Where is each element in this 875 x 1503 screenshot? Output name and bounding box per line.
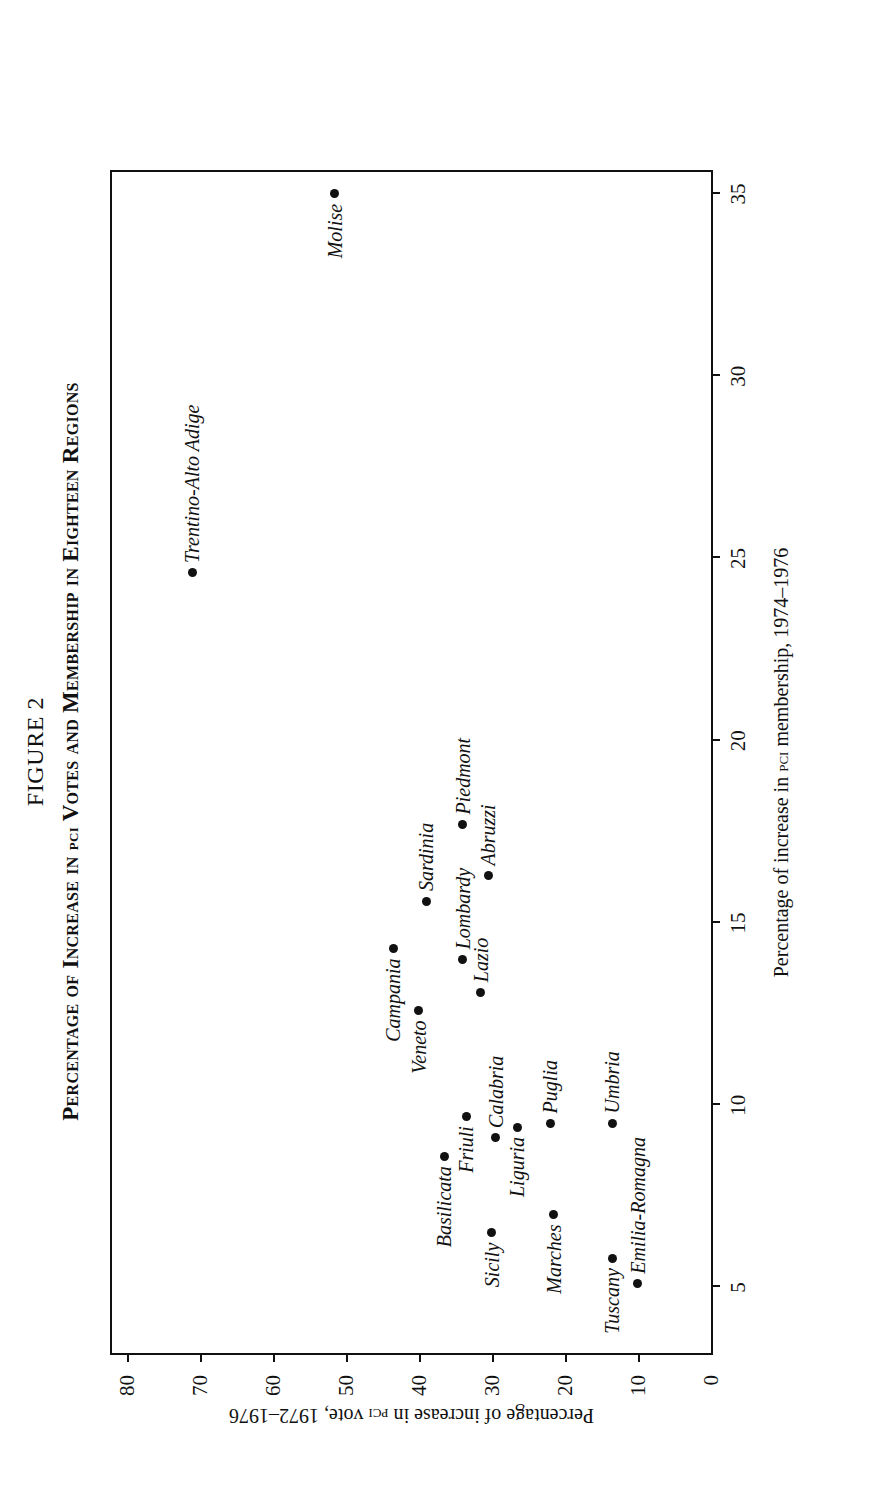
x-tick-mark (711, 192, 720, 194)
scatter-point-label: Puglia (539, 1060, 562, 1113)
scatter-point (513, 1123, 522, 1132)
x-tick-label: 20 (726, 730, 751, 751)
figure-number: FIGURE 2 (22, 0, 49, 1503)
x-tick-label: 25 (726, 548, 751, 569)
x-axis-title-part1: Percentage of increase in (770, 772, 792, 977)
scatter-point-label: Emilia-Romagna (626, 1137, 649, 1274)
x-tick-mark (711, 374, 720, 376)
scatter-point (484, 871, 493, 880)
scatter-point (487, 1228, 496, 1237)
scatter-point (389, 944, 398, 953)
y-tick-mark (200, 1353, 202, 1362)
scatter-point (414, 1006, 423, 1015)
scatter-point (458, 820, 467, 829)
y-tick-label: 60 (260, 1375, 285, 1396)
y-tick-label: 50 (333, 1375, 358, 1396)
x-tick-label: 35 (726, 183, 751, 204)
x-tick-label: 30 (726, 366, 751, 387)
scatter-point-label: Basilicata (433, 1166, 456, 1247)
scatter-point-label: Friuli (455, 1126, 478, 1173)
scatter-point-label: Tuscany (601, 1268, 624, 1334)
scatter-point (608, 1119, 617, 1128)
scatter-point (330, 189, 339, 198)
y-tick-mark (127, 1353, 129, 1362)
scatter-point-label: Sardinia (415, 823, 438, 891)
scatter-point (422, 897, 431, 906)
scatter-point-label: Abruzzi (477, 804, 500, 865)
y-tick-mark (565, 1353, 567, 1362)
y-axis-title: Percentage of increase in pci vote, 1972… (110, 1404, 713, 1427)
scatter-point-label: Molise (323, 204, 346, 258)
x-tick-mark (711, 921, 720, 923)
scatter-point (633, 1279, 642, 1288)
y-axis-title-pci: pci (368, 1405, 388, 1425)
figure-title-part1: Percentage of Increase in (58, 850, 83, 1120)
scatter-point (476, 988, 485, 997)
scatter-point-label: Umbria (601, 1051, 624, 1113)
y-tick-label: 20 (552, 1375, 577, 1396)
scatter-point-label: Lazio (469, 938, 492, 982)
y-tick-mark (346, 1353, 348, 1362)
figure-title-part2: Votes and Membership in Eighteen Regions (58, 382, 83, 827)
plot-area: 5101520253035 01020304050607080 MoliseTr… (110, 170, 713, 1355)
x-tick-mark (711, 1103, 720, 1105)
scatter-point-label: Calabria (484, 1056, 507, 1128)
scatter-point-label: Liguria (506, 1137, 529, 1197)
x-axis-title: Percentage of increase in pci membership… (770, 170, 793, 1355)
figure-container: FIGURE 2 Percentage of Increase in pci V… (0, 0, 875, 1503)
scatter-point-label: Campania (382, 958, 405, 1041)
scatter-point-label: Trentino-Alto Adige (181, 405, 204, 563)
scatter-point (491, 1133, 500, 1142)
x-tick-mark (711, 739, 720, 741)
x-axis-title-pci: pci (772, 752, 792, 772)
x-tick-mark (711, 1285, 720, 1287)
figure-title: Percentage of Increase in pci Votes and … (58, 0, 84, 1503)
scatter-point (549, 1210, 558, 1219)
x-tick-label: 10 (726, 1095, 751, 1116)
x-axis-title-part2: membership, 1974–1976 (770, 548, 792, 752)
y-axis-title-part2: vote, 1972–1976 (229, 1405, 368, 1427)
y-tick-mark (273, 1353, 275, 1362)
scatter-point-label: Piedmont (451, 738, 474, 815)
scatter-point (440, 1152, 449, 1161)
y-tick-label: 70 (187, 1375, 212, 1396)
scatter-point (546, 1119, 555, 1128)
scatter-point (188, 568, 197, 577)
y-tick-label: 30 (479, 1375, 504, 1396)
figure-title-pci: pci (61, 827, 82, 850)
x-tick-mark (711, 556, 720, 558)
y-tick-mark (492, 1353, 494, 1362)
y-tick-label: 80 (114, 1375, 139, 1396)
scatter-point-label: Veneto (407, 1020, 430, 1073)
x-tick-label: 5 (726, 1282, 751, 1293)
scatter-point (462, 1112, 471, 1121)
scatter-point-label: Marches (542, 1225, 565, 1294)
y-tick-label: 40 (406, 1375, 431, 1396)
scatter-point (608, 1254, 617, 1263)
scatter-point (458, 955, 467, 964)
scatter-point-label: Sicily (480, 1243, 503, 1287)
y-tick-mark (419, 1353, 421, 1362)
y-axis-title-part1: Percentage of increase in (389, 1405, 594, 1427)
y-tick-label: 10 (625, 1375, 650, 1396)
y-tick-label: 0 (699, 1375, 724, 1386)
y-tick-mark (638, 1353, 640, 1362)
x-tick-label: 15 (726, 912, 751, 933)
